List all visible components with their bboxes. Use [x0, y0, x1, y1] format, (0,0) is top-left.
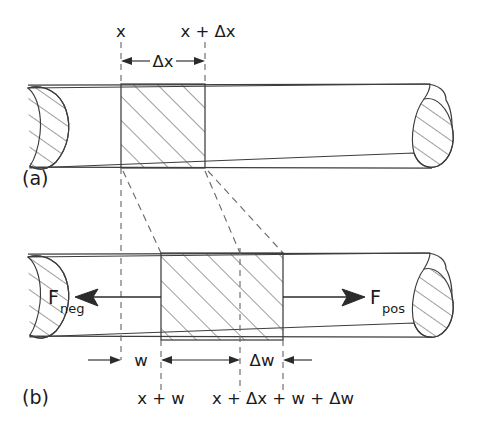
label-x-plus-dx-top: x + Δx	[180, 22, 235, 41]
panel-label-a: (a)	[22, 167, 48, 189]
label-x-plus-dx-plus-w-plus-dw: x + Δx + w + Δw	[212, 389, 354, 408]
arrow-head-right-icon	[194, 57, 205, 65]
label-x-top: x	[116, 22, 126, 41]
figure-root: Δx x x + Δx	[0, 0, 482, 430]
tube-body-a	[28, 84, 453, 169]
panel-a: Δx x x + Δx	[20, 22, 465, 189]
projection-line-dx-to-right-edge	[208, 171, 283, 253]
panel-b: F neg F pos w Δw x + w x + Δx +	[20, 248, 465, 408]
arrow-head-left-icon	[121, 57, 132, 65]
arrow-head-right-icon	[110, 356, 121, 364]
projection-line-dx-to-mid	[205, 171, 240, 253]
force-label-pos: F	[370, 286, 381, 308]
arrow-head-left-icon	[283, 356, 294, 364]
dimension-label-w: w	[134, 351, 148, 370]
dimension-label-delta-x: Δx	[152, 52, 173, 71]
physics-tube-diagram: Δx x x + Δx	[0, 0, 482, 430]
dimension-label-dw: Δw	[250, 351, 275, 370]
force-label-pos-subscript: pos	[382, 301, 405, 316]
projection-line-x-to-left-edge	[123, 171, 161, 253]
arrow-head-left-icon	[161, 356, 172, 364]
hatched-slab-b	[161, 253, 283, 340]
dimension-delta-x: Δx	[121, 52, 205, 71]
arrow-head-right-icon	[229, 356, 240, 364]
label-x-plus-w: x + w	[137, 389, 185, 408]
tube-bottom-wall-a	[30, 167, 432, 168]
projection-lines	[121, 168, 283, 258]
hatched-slab-a	[121, 84, 205, 168]
force-label-neg: F	[48, 286, 59, 308]
dimension-row-b: w Δw	[88, 351, 312, 370]
force-label-neg-subscript: neg	[60, 301, 85, 316]
panel-label-b: (b)	[22, 386, 49, 408]
